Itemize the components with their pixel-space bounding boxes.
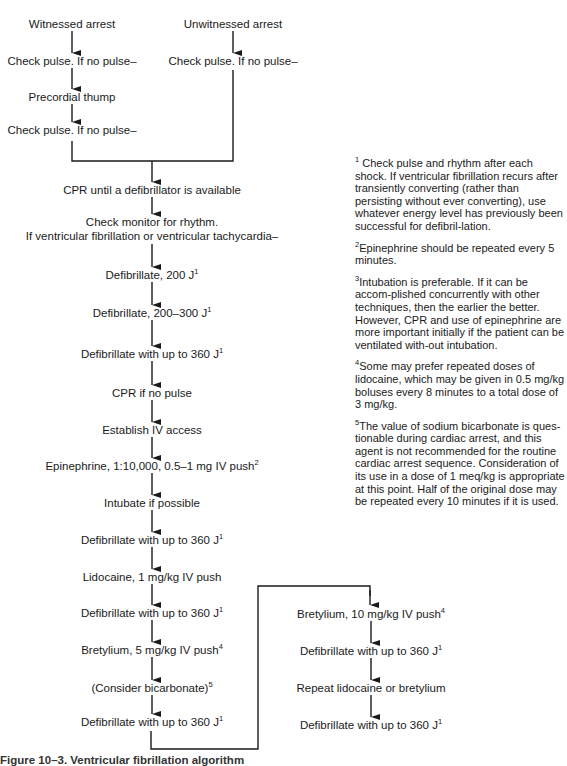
- footnotes: 1 Check pulse and rhythm after each shoc…: [355, 157, 565, 517]
- node-label: Bretylium, 10 mg/kg IV push: [297, 608, 441, 620]
- node-label: Check monitor for rhythm.: [86, 216, 218, 228]
- footnote-ref: 1: [194, 267, 198, 276]
- flow-node-defib360b: Defibrillate with up to 360 J1: [81, 533, 223, 547]
- flow-node-iv: Establish IV access: [102, 423, 202, 437]
- node-label: Defibrillate, 200–300 J: [93, 307, 207, 319]
- footnote-2: 2Epinephrine should be repeated every 5 …: [355, 242, 565, 267]
- flow-node-check3: Check pulse. If no pulse–: [168, 54, 297, 68]
- node-label: Epinephrine, 1:10,000, 0.5–1 mg IV push: [45, 460, 254, 472]
- flow-node-defib360d: Defibrillate with up to 360 J1: [81, 715, 223, 729]
- node-label: Defibrillate with up to 360 J: [300, 645, 438, 657]
- footnote-text: Check pulse and rhythm after each shock.…: [355, 157, 563, 232]
- flow-node-bicarb: (Consider bicarbonate)5: [91, 681, 212, 695]
- node-label: If ventricular fibrillation or ventricul…: [26, 230, 278, 242]
- node-label: Defibrillate, 200 J: [105, 269, 194, 281]
- footnote-ref: 2: [254, 458, 258, 467]
- node-label: CPR until a defibrillator is available: [63, 184, 241, 196]
- figure-caption: Figure 10–3. Ventricular fibrillation al…: [0, 754, 244, 766]
- flow-node-cprnopulse: CPR if no pulse: [112, 386, 192, 400]
- flow-node-defib360e: Defibrillate with up to 360 J1: [300, 644, 442, 658]
- footnote-ref: 4: [441, 606, 445, 615]
- flow-node-thump: Precordial thump: [29, 90, 116, 104]
- join-line: [72, 70, 233, 161]
- node-label: Intubate if possible: [104, 497, 200, 509]
- node-label: Lidocaine, 1 mg/kg IV push: [83, 571, 222, 583]
- footnote-ref: 1: [207, 305, 211, 314]
- node-label: Defibrillate with up to 360 J: [300, 719, 438, 731]
- footnote-ref: 1: [438, 643, 442, 652]
- flow-node-lido: Lidocaine, 1 mg/kg IV push: [83, 570, 222, 584]
- flow-node-defib360c: Defibrillate with up to 360 J1: [81, 606, 223, 620]
- footnote-ref: 1: [438, 717, 442, 726]
- node-label: Repeat lidocaine or bretylium: [297, 682, 446, 694]
- node-label: Check pulse. If no pulse–: [7, 55, 136, 67]
- node-label: Establish IV access: [102, 424, 202, 436]
- node-label: Check pulse. If no pulse–: [7, 124, 136, 136]
- flow-node-monitor2: If ventricular fibrillation or ventricul…: [26, 229, 278, 243]
- node-label: Witnessed arrest: [29, 18, 115, 30]
- footnote-ref: 5: [208, 680, 212, 689]
- node-label: Defibrillate with up to 360 J: [81, 716, 219, 728]
- flow-node-bret10: Bretylium, 10 mg/kg IV push4: [297, 607, 445, 621]
- footnote-5: 5The value of sodium bicarbonate is ques…: [355, 420, 565, 508]
- footnote-4: 4Some may prefer repeated doses of lidoc…: [355, 360, 565, 410]
- footnote-ref: 1: [219, 605, 223, 614]
- flow-node-defib200: Defibrillate, 200 J1: [105, 268, 198, 282]
- node-label: Defibrillate with up to 360 J: [81, 607, 219, 619]
- flow-node-check2: Check pulse. If no pulse–: [7, 123, 136, 137]
- footnote-text: The value of sodium bicarbonate is ques-…: [355, 420, 565, 508]
- node-label: Precordial thump: [29, 91, 116, 103]
- flow-node-bret5: Bretylium, 5 mg/kg IV push4: [81, 643, 223, 657]
- flow-node-defib360a: Defibrillate with up to 360 J1: [81, 347, 223, 361]
- flow-node-repeat: Repeat lidocaine or bretylium: [297, 681, 446, 695]
- flow-node-defib360f: Defibrillate with up to 360 J1: [300, 718, 442, 732]
- node-label: Bretylium, 5 mg/kg IV push: [81, 644, 218, 656]
- node-label: (Consider bicarbonate): [91, 682, 208, 694]
- footnote-ref: 1: [219, 346, 223, 355]
- footnote-text: Intubation is preferable. If it can be a…: [355, 276, 564, 351]
- footnote-1: 1 Check pulse and rhythm after each shoc…: [355, 157, 565, 233]
- flow-node-witnessed: Witnessed arrest: [29, 17, 115, 31]
- flow-node-epi: Epinephrine, 1:10,000, 0.5–1 mg IV push2: [45, 459, 258, 473]
- node-label: Unwitnessed arrest: [184, 18, 282, 30]
- footnote-ref: 1: [219, 714, 223, 723]
- flow-node-check1: Check pulse. If no pulse–: [7, 54, 136, 68]
- flow-node-defib300: Defibrillate, 200–300 J1: [93, 306, 212, 320]
- footnote-text: Some may prefer repeated doses of lidoca…: [355, 360, 564, 410]
- flow-node-cpr: CPR until a defibrillator is available: [63, 183, 241, 197]
- footnote-3: 3Intubation is preferable. If it can be …: [355, 276, 565, 352]
- footnote-ref: 4: [219, 642, 223, 651]
- node-label: Defibrillate with up to 360 J: [81, 348, 219, 360]
- node-label: CPR if no pulse: [112, 387, 192, 399]
- flow-node-intubate: Intubate if possible: [104, 496, 200, 510]
- flow-node-monitor1: Check monitor for rhythm.: [86, 215, 218, 229]
- node-label: Check pulse. If no pulse–: [168, 55, 297, 67]
- footnote-text: Epinephrine should be repeated every 5 m…: [355, 242, 554, 267]
- footnote-ref: 1: [219, 532, 223, 541]
- node-label: Defibrillate with up to 360 J: [81, 534, 219, 546]
- flow-node-unwitnessed: Unwitnessed arrest: [184, 17, 282, 31]
